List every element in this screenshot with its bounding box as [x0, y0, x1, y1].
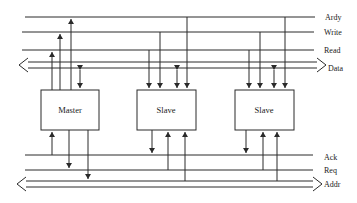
addr-bus — [17, 177, 322, 191]
write-label: Write — [324, 28, 342, 37]
data-label: Data — [328, 64, 344, 73]
addr-label: Addr — [324, 180, 341, 189]
slave2-label: Slave — [255, 105, 274, 115]
bus-diagram: Master Slave Slave Ardy Write Read Data … — [0, 0, 357, 203]
slave1-label: Slave — [157, 105, 176, 115]
master-label: Master — [58, 105, 82, 115]
ack-label: Ack — [324, 153, 337, 162]
ardy-label: Ardy — [325, 13, 341, 22]
data-bus — [19, 58, 326, 72]
req-label: Req — [324, 166, 337, 175]
read-label: Read — [324, 46, 340, 55]
